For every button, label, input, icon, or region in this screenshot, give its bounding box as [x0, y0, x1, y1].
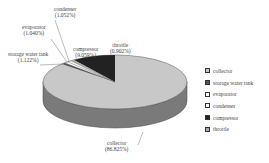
legend: collector storage water tank evaporator … [205, 65, 253, 135]
legend-item: compressor [205, 112, 253, 124]
legend-swatch [205, 103, 210, 108]
legend-item: throttle [205, 123, 253, 135]
legend-item: evaporator [205, 88, 253, 100]
legend-item: storage water tank [205, 77, 253, 89]
label-compressor: compressor(9.059%) [73, 46, 98, 58]
legend-swatch [205, 68, 210, 73]
label-throttle: throttle(0.902%) [110, 42, 131, 54]
legend-swatch [205, 127, 210, 132]
legend-swatch [205, 115, 210, 120]
label-storage: storage water tank(1.122%) [8, 51, 48, 63]
label-collector: collector(86.825%) [105, 140, 128, 152]
legend-swatch [205, 92, 210, 97]
legend-item: condenser [205, 100, 253, 112]
legend-item: collector [205, 65, 253, 77]
label-evaporator: evaporator(1.040%) [22, 24, 46, 36]
label-condenser: condenser(1.052%) [54, 6, 76, 18]
legend-swatch [205, 80, 210, 85]
